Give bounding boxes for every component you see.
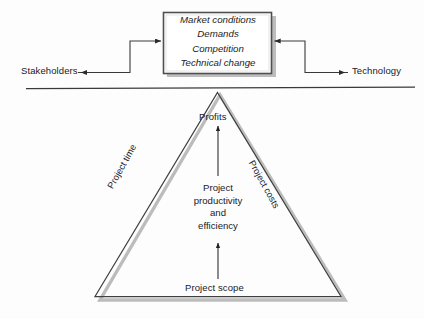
diagram-canvas: Market conditions Demands Competition Te… [0,0,424,319]
technology-label: Technology [352,66,401,76]
project-productivity-efficiency-label: Project productivity and efficiency [178,182,258,232]
factors-line-technical-change: Technical change [164,56,272,70]
factors-line-market-conditions: Market conditions [164,13,272,27]
right-connector-to-box [275,41,349,73]
left-connector-to-box [78,41,161,73]
center-line-project: Project [178,182,258,195]
profits-label: Profits [199,112,227,122]
factors-line-demands: Demands [164,27,272,41]
center-line-and: and [178,207,258,220]
external-factors-box-text: Market conditions Demands Competition Te… [164,13,272,70]
horizontal-divider-line [26,87,415,88]
project-scope-label: Project scope [185,283,244,293]
factors-line-competition: Competition [164,42,272,56]
stakeholders-label: Stakeholders [21,66,78,76]
center-line-efficiency: efficiency [178,220,258,233]
center-line-productivity: productivity [178,195,258,208]
